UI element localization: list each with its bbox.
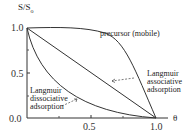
y-axis-label: S/So — [18, 3, 34, 15]
associative-annotation-3: adsorption — [147, 86, 181, 94]
x-axis-label: θ — [173, 114, 177, 122]
y-tick-05: 0.5 — [11, 69, 24, 79]
precursor-annotation: precursor (mobile) — [100, 30, 160, 38]
dissociative-annotation-3: adsorption — [30, 103, 64, 111]
x-tick-1: 1.0 — [150, 122, 163, 132]
y-tick-0: 0.0 — [9, 114, 22, 124]
y-tick-1: 1.0 — [11, 23, 24, 33]
x-tick-05: 0.5 — [83, 122, 96, 132]
